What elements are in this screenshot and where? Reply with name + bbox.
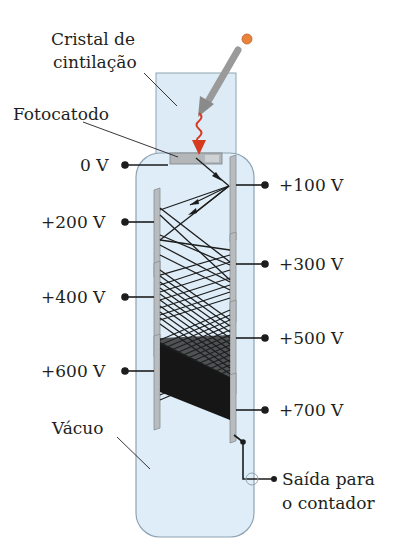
output-label-line2: o contador [282,493,375,513]
voltage-500v: +500 V [279,328,344,348]
voltage-0v: 0 V [80,155,109,175]
photocathode-label: Fotocatodo [13,104,109,124]
dynode-700v [230,373,236,443]
voltage-200v: +200 V [41,212,106,232]
voltage-400v: +400 V [41,287,106,307]
crystal-label-line2: cintilação [53,52,137,72]
crystal-label-line1: Cristal de [51,29,135,49]
dynode-600v [154,334,160,430]
dynode-100v [230,155,236,242]
photomultiplier-diagram: Cristal de cintilação Fotocatodo 0 V +10… [0,0,404,552]
voltage-300v: +300 V [279,254,344,274]
output-label-line1: Saída para [282,469,375,489]
voltage-100v: +100 V [279,175,344,195]
incoming-particle [242,34,252,44]
voltage-700v: +700 V [279,400,344,420]
vacuum-label: Vácuo [51,418,104,438]
voltage-600v: +600 V [41,361,106,381]
